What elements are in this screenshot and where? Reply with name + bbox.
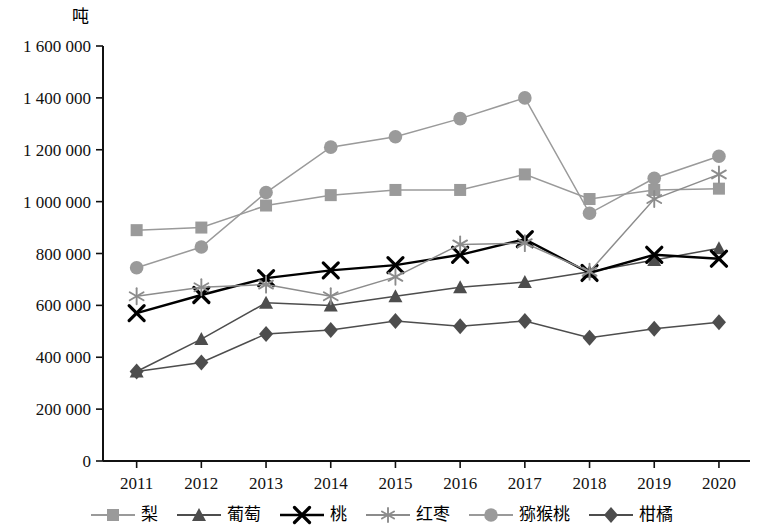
legend-marker-circle-icon (468, 504, 514, 526)
data-point-marker (389, 184, 401, 196)
legend-item-桃[interactable]: 桃 (279, 504, 347, 526)
series-line (137, 321, 719, 372)
data-point-marker (107, 509, 119, 521)
data-point-marker (518, 91, 532, 105)
data-point-marker (325, 189, 337, 201)
x-axis-tick-label: 2013 (249, 474, 283, 493)
data-point-marker (259, 326, 273, 342)
data-point-marker (389, 130, 403, 144)
x-axis-tick-label: 2012 (184, 474, 218, 493)
data-point-marker (712, 314, 726, 330)
x-axis-tick-label: 2017 (508, 474, 543, 493)
data-point-marker (195, 240, 209, 254)
y-axis-tick-label: 600 000 (36, 296, 91, 315)
legend-marker-square-icon (90, 504, 136, 526)
series-line (137, 239, 719, 313)
data-point-marker (712, 149, 726, 163)
data-point-marker (194, 332, 208, 345)
legend-item-柑橘[interactable]: 柑橘 (588, 504, 673, 526)
data-point-marker (131, 224, 143, 236)
data-point-marker (324, 140, 338, 154)
data-point-marker (519, 168, 531, 180)
legend-label: 红枣 (414, 506, 450, 523)
legend-item-梨[interactable]: 梨 (90, 504, 158, 526)
y-axis-tick-label: 200 000 (36, 400, 91, 419)
series-0 (131, 168, 725, 236)
legend-marker-triangle-icon (176, 504, 222, 526)
y-axis-tick-label: 1 400 000 (23, 89, 91, 108)
data-point-marker (324, 288, 338, 304)
y-axis-unit-label: 吨 (72, 2, 89, 27)
series-2 (129, 232, 726, 321)
y-axis-tick-label: 0 (83, 452, 92, 471)
legend-label: 桃 (328, 506, 347, 523)
legend-marker-diamond-icon (588, 504, 634, 526)
data-point-marker (583, 330, 597, 346)
data-point-marker (584, 193, 596, 205)
x-axis-tick-label: 2011 (120, 474, 153, 493)
data-point-marker (518, 313, 532, 329)
data-point-marker (604, 507, 618, 523)
legend-item-葡萄[interactable]: 葡萄 (176, 504, 261, 526)
data-point-marker (324, 322, 338, 338)
data-point-marker (388, 313, 402, 329)
legend-item-猕猴桃[interactable]: 猕猴桃 (468, 504, 570, 526)
x-axis-tick-label: 2015 (378, 474, 412, 493)
data-point-marker (713, 183, 725, 195)
data-point-marker (712, 166, 726, 182)
data-point-marker (129, 306, 144, 321)
data-point-marker (454, 184, 466, 196)
data-point-marker (259, 186, 273, 200)
legend-label: 葡萄 (225, 506, 261, 523)
data-point-marker (453, 318, 467, 334)
data-point-marker (647, 321, 661, 337)
x-axis-tick-label: 2016 (443, 474, 477, 493)
data-point-marker (130, 261, 144, 275)
legend-label: 柑橘 (637, 506, 673, 523)
legend-item-红枣[interactable]: 红枣 (365, 504, 450, 526)
chart-legend: 梨葡萄桃红枣猕猴桃柑橘 (0, 498, 762, 531)
series-line (137, 98, 719, 268)
y-axis-tick-label: 400 000 (36, 348, 91, 367)
y-axis-tick-label: 1 200 000 (23, 141, 91, 160)
series-5 (130, 313, 726, 380)
y-axis-tick-label: 800 000 (36, 245, 91, 264)
x-axis-tick-label: 2019 (637, 474, 671, 493)
y-axis-tick-label: 1 600 000 (23, 37, 91, 56)
series-1 (130, 241, 726, 377)
x-axis-tick-label: 2020 (702, 474, 736, 493)
data-point-marker (195, 222, 207, 234)
data-point-marker (583, 206, 597, 220)
y-axis-tick-label: 1 000 000 (23, 193, 91, 212)
x-axis-tick-label: 2014 (314, 474, 349, 493)
line-chart: 吨 1 600 0001 400 0001 200 0001 000 00080… (0, 0, 762, 531)
data-point-marker (453, 112, 467, 126)
series-4 (130, 91, 726, 274)
x-axis-tick-label: 2018 (573, 474, 607, 493)
series-line (137, 174, 719, 230)
legend-marker-asterisk-icon (365, 504, 411, 526)
data-point-marker (194, 354, 208, 370)
chart-plot-area: 1 600 0001 400 0001 200 0001 000 000800 … (0, 0, 762, 500)
data-point-marker (260, 200, 272, 212)
data-point-marker (647, 171, 661, 185)
legend-label: 梨 (139, 506, 158, 523)
data-point-marker (484, 508, 498, 522)
legend-marker-x-icon (279, 504, 325, 526)
legend-label: 猕猴桃 (517, 506, 570, 523)
